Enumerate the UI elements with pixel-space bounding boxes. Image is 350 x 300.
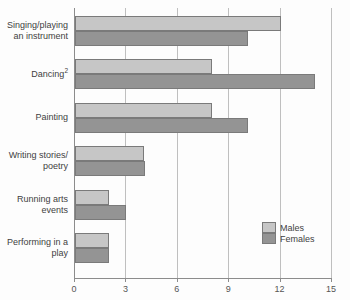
x-tick-label: 0 bbox=[71, 284, 76, 294]
x-tick-label: 15 bbox=[326, 284, 336, 294]
bar-chart: 03691215 Singing/playingan instrumentDan… bbox=[0, 0, 350, 300]
x-axis-line bbox=[74, 278, 332, 279]
x-tick-label: 12 bbox=[275, 284, 285, 294]
legend-item-males: Males bbox=[262, 222, 315, 233]
bar bbox=[75, 103, 212, 118]
tick-mark-9 bbox=[228, 278, 229, 282]
tick-mark-3 bbox=[125, 278, 126, 282]
category-label: Writing stories/poetry bbox=[0, 150, 68, 172]
tick-mark-6 bbox=[177, 278, 178, 282]
gridline-3 bbox=[125, 8, 126, 278]
category-label: Performing in aplay bbox=[0, 237, 68, 259]
gridline-6 bbox=[177, 8, 178, 278]
x-tick-label: 6 bbox=[174, 284, 179, 294]
bar bbox=[75, 248, 109, 263]
bar bbox=[75, 233, 109, 248]
legend-swatch-females bbox=[262, 233, 276, 244]
category-label: Running artsevents bbox=[0, 194, 68, 216]
x-tick-label: 9 bbox=[226, 284, 231, 294]
gridline-15 bbox=[331, 8, 332, 278]
category-label: Dancing2 bbox=[0, 69, 68, 80]
category-label: Painting bbox=[0, 112, 68, 123]
legend-label-females: Females bbox=[280, 234, 315, 244]
bar bbox=[75, 31, 248, 46]
legend-item-females: Females bbox=[262, 233, 315, 244]
bar bbox=[75, 16, 281, 31]
tick-mark-12 bbox=[280, 278, 281, 282]
bar bbox=[75, 205, 126, 220]
legend-swatch-males bbox=[262, 222, 276, 233]
gridline-9 bbox=[228, 8, 229, 278]
bar bbox=[75, 59, 212, 74]
tick-mark-15 bbox=[331, 278, 332, 282]
legend-label-males: Males bbox=[280, 223, 304, 233]
bar bbox=[75, 118, 248, 133]
tick-mark-0 bbox=[74, 278, 75, 282]
bar bbox=[75, 161, 145, 176]
legend: Males Females bbox=[262, 222, 315, 244]
bar bbox=[75, 190, 109, 205]
category-label: Singing/playingan instrument bbox=[0, 20, 68, 42]
bar bbox=[75, 74, 315, 89]
bar bbox=[75, 146, 144, 161]
x-tick-label: 3 bbox=[123, 284, 128, 294]
